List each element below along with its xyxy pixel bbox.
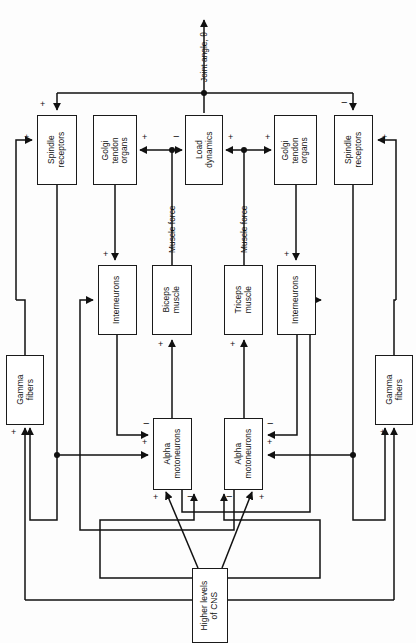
block-interneurons-left[interactable]: Interneurons bbox=[98, 265, 137, 335]
diagram-canvas: Spindle receptors Golgi tendon organs Lo… bbox=[0, 0, 416, 643]
sign-plus: + bbox=[230, 340, 235, 349]
block-label: Gamma fibers bbox=[384, 375, 403, 405]
sign-plus: + bbox=[24, 133, 29, 142]
diagram-wires bbox=[0, 0, 416, 643]
block-label: Spindle receptors bbox=[47, 132, 66, 168]
block-alpha-motoneurons-left[interactable]: Alpha motoneurons bbox=[153, 418, 192, 490]
block-interneurons-right[interactable]: Interneurons bbox=[277, 265, 316, 335]
sign-plus: + bbox=[142, 133, 147, 142]
block-spindle-right[interactable]: Spindle receptors bbox=[334, 115, 373, 185]
sign-minus: − bbox=[143, 418, 149, 429]
signal-label-muscle-force-left: Muscle force bbox=[167, 206, 177, 253]
block-golgi-left[interactable]: Golgi tendon organs bbox=[93, 115, 137, 185]
block-gamma-fibers-left[interactable]: Gamma fibers bbox=[6, 355, 44, 425]
block-label: Golgi tendon organs bbox=[101, 137, 130, 163]
block-label: Golgi tendon organs bbox=[281, 137, 310, 163]
sign-plus: + bbox=[142, 438, 147, 447]
block-label: Higher levels of CNS bbox=[200, 581, 219, 631]
block-gamma-fibers-right[interactable]: Gamma fibers bbox=[375, 355, 413, 425]
block-triceps-muscle[interactable]: Triceps muscle bbox=[224, 265, 263, 335]
sign-plus: + bbox=[382, 133, 387, 142]
sign-plus: + bbox=[265, 133, 270, 142]
sign-minus: − bbox=[187, 491, 193, 502]
block-label: Triceps muscle bbox=[234, 286, 253, 314]
sign-minus: − bbox=[341, 97, 347, 108]
block-label: Biceps muscle bbox=[162, 286, 181, 313]
block-label: Alpha motoneurons bbox=[234, 429, 253, 479]
output-label-joint-angle: Joint angle, θ bbox=[199, 32, 209, 82]
sign-plus: + bbox=[259, 493, 264, 502]
sign-plus: + bbox=[153, 493, 158, 502]
block-load-dynamics[interactable]: Load dynamics bbox=[185, 115, 223, 185]
block-golgi-right[interactable]: Golgi tendon organs bbox=[274, 115, 317, 185]
block-label: Spindle receptors bbox=[344, 132, 363, 168]
block-label: Interneurons bbox=[113, 276, 123, 324]
sign-plus: + bbox=[40, 100, 45, 109]
sign-plus: + bbox=[103, 250, 108, 259]
sign-plus: + bbox=[284, 250, 289, 259]
sign-minus: − bbox=[267, 418, 273, 429]
block-alpha-motoneurons-right[interactable]: Alpha motoneurons bbox=[224, 418, 263, 490]
block-label: Interneurons bbox=[292, 276, 302, 324]
sign-plus: + bbox=[158, 340, 163, 349]
sign-minus: − bbox=[173, 131, 179, 142]
block-biceps-muscle[interactable]: Biceps muscle bbox=[152, 265, 192, 335]
sign-plus: + bbox=[228, 133, 233, 142]
block-label: Load dynamics bbox=[194, 132, 213, 168]
sign-plus: + bbox=[267, 438, 272, 447]
sign-plus: + bbox=[380, 428, 385, 437]
sign-minus: − bbox=[226, 491, 232, 502]
block-higher-levels-of-cns[interactable]: Higher levels of CNS bbox=[192, 568, 228, 643]
block-label: Gamma fibers bbox=[15, 375, 34, 405]
block-label: Alpha motoneurons bbox=[163, 429, 182, 479]
sign-plus: + bbox=[11, 428, 16, 437]
signal-label-muscle-force-right: Muscle force bbox=[239, 206, 249, 253]
block-spindle-left[interactable]: Spindle receptors bbox=[37, 115, 77, 185]
